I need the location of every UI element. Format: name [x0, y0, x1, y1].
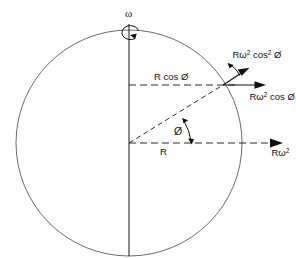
rotating-sphere-figure: ω R cos Ø Rω2 R Ø Rω2 cos Ø	[0, 0, 296, 258]
rw2cos-tail: cos Ø	[267, 91, 295, 102]
component-arc-head	[228, 63, 234, 69]
rotation-arrow-arc	[122, 26, 139, 40]
r-omega-sq-cos-sq-phi-vector	[223, 72, 243, 85]
angle-arc-head-lower	[188, 139, 194, 145]
rw2cos2-base: Rω	[232, 49, 247, 60]
r-omega-squared-exponent: 2	[286, 147, 290, 154]
rw2cos2-mid: cos	[250, 49, 268, 60]
r-omega-sq-cos-phi-arrow-head	[255, 81, 267, 89]
angle-phi-label: Ø	[174, 125, 182, 137]
radius-label: R	[160, 146, 167, 157]
r-cos-phi-label: R cos Ø	[154, 71, 189, 82]
r-omega-sq-cos-sq-phi-label: Rω2 cos2 Ø	[214, 49, 295, 60]
omega-label: ω	[125, 7, 132, 19]
rotation-arrow-head	[130, 33, 137, 39]
rw2cos-base: Rω	[249, 91, 264, 102]
r-omega-squared-base: Rω	[271, 147, 286, 158]
rw2cos2-tail: Ø	[271, 49, 282, 60]
physics-diagram-canvas: ω R cos Ø Rω2 R Ø Rω2 cos Ø	[0, 0, 296, 258]
r-omega-sq-cos-phi-label: Rω2 cos Ø	[231, 91, 296, 102]
